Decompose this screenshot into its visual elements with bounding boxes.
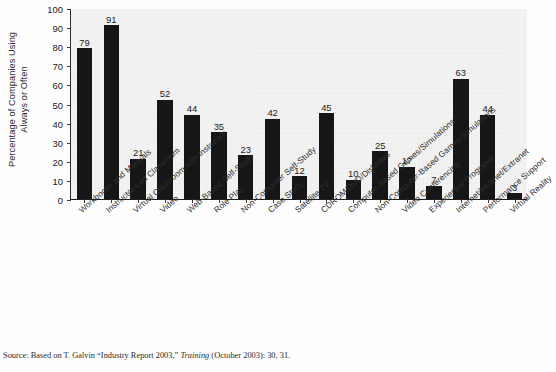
y-axis-tick-label: 100 (47, 4, 63, 15)
x-axis-tick-mark (219, 199, 220, 203)
y-axis-tick-label: 10 (53, 175, 63, 186)
y-axis-tick-label: 70 (53, 61, 63, 72)
bar-value-label: 10 (336, 168, 371, 179)
bar-value-label: 63 (443, 67, 478, 78)
source-note: Source: Based on T. Galvin “Industry Rep… (3, 351, 290, 360)
bar-value-label: 21 (121, 147, 156, 158)
x-axis-tick-mark (461, 199, 462, 203)
x-axis-tick-mark (111, 199, 112, 203)
x-axis-tick-mark (380, 199, 381, 203)
bar (399, 167, 414, 199)
y-axis-title: Percentage of Companies Using Always or … (7, 10, 30, 190)
source-suffix: (October 2003): 30, 31. (209, 351, 290, 360)
bar (104, 25, 119, 199)
bar (77, 48, 92, 199)
bar (346, 180, 361, 199)
y-axis-tick-labels: 0102030405060708090100 (34, 0, 66, 205)
source-publication: Training (180, 351, 209, 360)
x-axis-tick-mark (84, 199, 85, 203)
x-axis-tick-mark (246, 199, 247, 203)
plot-area: 79912152443523421245102517763443 (70, 9, 527, 200)
x-axis-tick-mark (192, 199, 193, 203)
x-axis-tick-mark (300, 199, 301, 203)
bar (453, 79, 468, 199)
x-axis-tick-mark (273, 199, 274, 203)
bar (211, 132, 226, 199)
y-axis-tick-label: 0 (58, 195, 63, 206)
bar-value-label: 79 (67, 37, 102, 48)
bar (238, 155, 253, 199)
bar (157, 100, 172, 199)
y-axis-tick-label: 80 (53, 42, 63, 53)
y-axis-title-line-2: Always or Often (18, 10, 30, 190)
x-axis-tick-mark (353, 199, 354, 203)
bar (480, 115, 495, 199)
bar-value-label: 25 (363, 140, 398, 151)
bar-value-label: 7 (416, 174, 451, 185)
bar (292, 176, 307, 199)
y-axis-tick-label: 40 (53, 118, 63, 129)
bar (265, 119, 280, 199)
x-axis-tick-mark (488, 199, 489, 203)
bar-value-label: 44 (470, 103, 505, 114)
y-axis-tick-label: 50 (53, 99, 63, 110)
bar-value-label: 91 (94, 14, 129, 25)
y-axis-title-line-1: Percentage of Companies Using (7, 32, 17, 167)
bar (184, 115, 199, 199)
bar-value-label: 45 (309, 102, 344, 113)
x-axis-tick-mark (515, 199, 516, 203)
y-axis-tick-label: 60 (53, 80, 63, 91)
bar (130, 159, 145, 199)
source-prefix: Source: Based on T. Galvin “Industry Rep… (3, 351, 180, 360)
bar-value-label: 44 (175, 103, 210, 114)
y-axis-tick-label: 30 (53, 137, 63, 148)
bar-value-label: 12 (282, 165, 317, 176)
x-axis-tick-mark (138, 199, 139, 203)
bar-value-label: 3 (497, 182, 532, 193)
bar-chart-figure: Percentage of Companies Using Always or … (0, 0, 556, 372)
bar-value-label: 17 (390, 155, 425, 166)
bar-value-label: 23 (228, 144, 263, 155)
bar-value-label: 52 (148, 88, 183, 99)
bar-value-label: 42 (255, 107, 290, 118)
x-axis-tick-mark (165, 199, 166, 203)
bar (426, 186, 441, 199)
y-axis-tick-label: 90 (53, 23, 63, 34)
x-axis-tick-mark (326, 199, 327, 203)
y-axis-tick-mark (67, 200, 71, 201)
bar-value-label: 35 (201, 121, 236, 132)
bar-series: 79912152443523421245102517763443 (71, 9, 527, 199)
x-axis-tick-mark (434, 199, 435, 203)
bar (319, 113, 334, 199)
y-axis-title-container: Percentage of Companies Using Always or … (0, 0, 34, 205)
y-axis-tick-label: 20 (53, 156, 63, 167)
x-axis-tick-mark (407, 199, 408, 203)
bar (372, 151, 387, 199)
